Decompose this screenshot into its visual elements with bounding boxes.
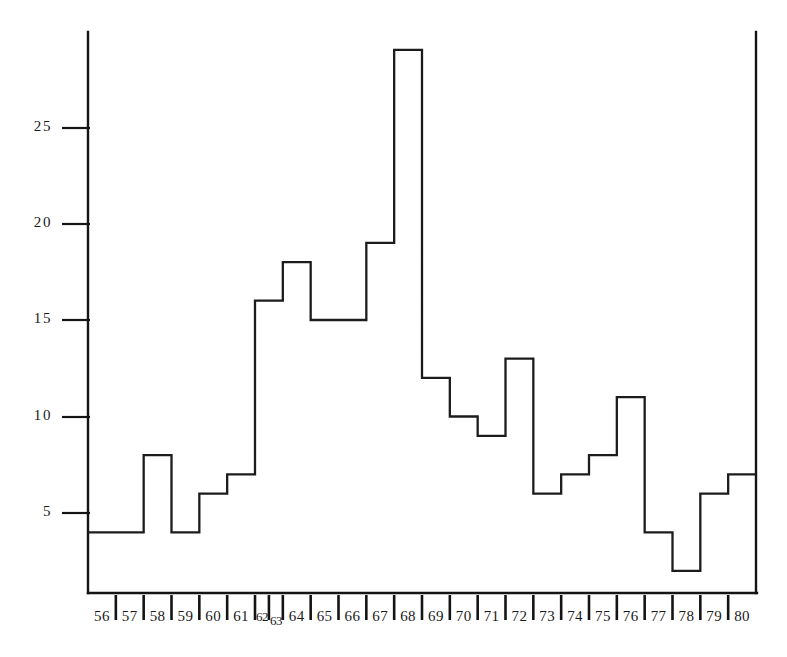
x-tick-label-70: 70 (456, 608, 472, 624)
x-tick-label-57: 57 (122, 608, 138, 624)
y-tick-label-10: 10 (34, 407, 52, 423)
x-tick-label-63: 63 (270, 613, 282, 628)
x-tick-label-62: 62 (256, 609, 268, 624)
x-tick-label-66: 66 (345, 608, 361, 624)
step-histogram-svg: 25 20 15 10 5 56575859606162636465666768… (0, 0, 787, 657)
y-tick-marks (62, 128, 90, 513)
x-tick-label-59: 59 (178, 608, 194, 624)
x-tick-label-72: 72 (512, 608, 528, 624)
x-tick-label-56: 56 (94, 608, 110, 624)
x-tick-label-71: 71 (484, 608, 500, 624)
y-tick-label-20: 20 (34, 214, 52, 230)
y-tick-label-5: 5 (43, 503, 52, 519)
x-tick-label-73: 73 (539, 608, 555, 624)
x-tick-label-65: 65 (317, 608, 333, 624)
x-tick-label-78: 78 (679, 608, 695, 624)
y-tick-label-25: 25 (34, 118, 52, 134)
series-group (88, 50, 756, 571)
x-tick-label-60: 60 (205, 608, 221, 624)
y-tick-label-15: 15 (34, 310, 52, 326)
x-tick-label-64: 64 (289, 608, 305, 624)
step-series-count (88, 50, 756, 571)
chart-figure: 25 20 15 10 5 56575859606162636465666768… (0, 0, 787, 657)
x-tick-label-69: 69 (428, 608, 444, 624)
x-tick-label-74: 74 (567, 608, 583, 624)
x-tick-label-67: 67 (372, 608, 388, 624)
x-tick-label-61: 61 (233, 608, 249, 624)
y-tick-labels: 25 20 15 10 5 (34, 118, 52, 519)
x-tick-label-77: 77 (651, 608, 667, 624)
x-tick-label-76: 76 (623, 608, 639, 624)
x-tick-label-68: 68 (400, 608, 416, 624)
x-tick-label-58: 58 (150, 608, 166, 624)
x-tick-label-80: 80 (734, 608, 750, 624)
x-tick-label-79: 79 (706, 608, 722, 624)
x-tick-label-75: 75 (595, 608, 611, 624)
